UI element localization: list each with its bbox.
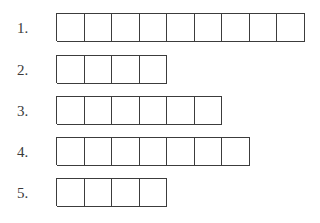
letter-box[interactable]: [57, 13, 85, 42]
letter-box[interactable]: [195, 13, 223, 42]
letter-box[interactable]: [195, 137, 223, 166]
answer-row-4: 4.: [0, 137, 320, 167]
letter-box[interactable]: [140, 13, 168, 42]
letter-box[interactable]: [167, 137, 195, 166]
letter-box[interactable]: [57, 96, 85, 125]
letter-box[interactable]: [57, 55, 85, 84]
letter-boxes: [56, 137, 250, 165]
row-number-label: 1.: [17, 19, 28, 37]
letter-box[interactable]: [112, 178, 140, 207]
letter-boxes: [56, 13, 305, 41]
letter-box[interactable]: [195, 96, 223, 125]
letter-box[interactable]: [140, 137, 168, 166]
letter-box[interactable]: [222, 137, 250, 166]
letter-box[interactable]: [250, 13, 278, 42]
letter-box[interactable]: [277, 13, 305, 42]
letter-boxes: [56, 96, 222, 124]
letter-boxes: [56, 55, 167, 83]
answer-row-3: 3.: [0, 96, 320, 126]
row-number-label: 4.: [17, 143, 28, 161]
letter-box[interactable]: [112, 13, 140, 42]
letter-box[interactable]: [222, 13, 250, 42]
letter-box[interactable]: [112, 137, 140, 166]
answer-row-1: 1.: [0, 13, 320, 43]
letter-box[interactable]: [112, 96, 140, 125]
letter-box[interactable]: [85, 13, 113, 42]
letter-box[interactable]: [85, 178, 113, 207]
answer-row-2: 2.: [0, 55, 320, 85]
letter-box[interactable]: [57, 137, 85, 166]
letter-box[interactable]: [112, 55, 140, 84]
letter-box[interactable]: [85, 137, 113, 166]
row-number-label: 2.: [17, 61, 28, 79]
row-number-label: 5.: [17, 184, 28, 202]
letter-box[interactable]: [85, 96, 113, 125]
letter-box[interactable]: [167, 13, 195, 42]
letter-box[interactable]: [85, 55, 113, 84]
letter-box[interactable]: [140, 55, 168, 84]
letter-box[interactable]: [167, 96, 195, 125]
letter-box[interactable]: [57, 178, 85, 207]
letter-box[interactable]: [140, 178, 168, 207]
letter-box[interactable]: [140, 96, 168, 125]
answer-row-5: 5.: [0, 178, 320, 208]
letter-boxes: [56, 178, 167, 206]
row-number-label: 3.: [17, 102, 28, 120]
